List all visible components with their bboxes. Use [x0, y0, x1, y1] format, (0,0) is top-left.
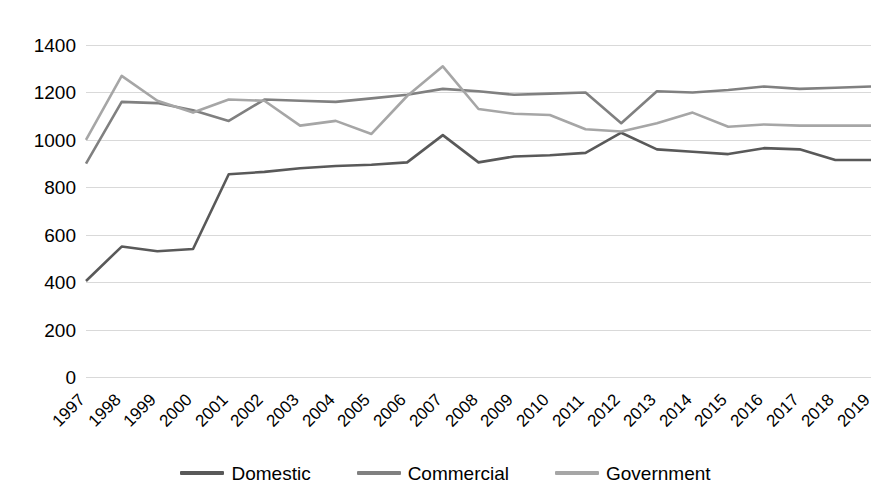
series-line-government	[86, 66, 871, 140]
x-axis: 1997199819992000200120022003200420052006…	[86, 381, 871, 451]
line-chart: 1400120010008006004002000 19971998199920…	[0, 0, 891, 500]
x-tick-label: 2018	[799, 391, 838, 430]
y-tick-label: 800	[44, 178, 76, 197]
x-tick-label: 2007	[406, 391, 445, 430]
legend-swatch-icon	[357, 471, 401, 475]
y-tick-label: 1000	[34, 130, 76, 149]
x-tick-label: 2012	[584, 391, 623, 430]
series-container	[86, 45, 871, 377]
chart-legend: DomesticCommercialGovernment	[0, 458, 891, 488]
x-tick-label: 2015	[691, 391, 730, 430]
x-tick-label: 2003	[263, 391, 302, 430]
legend-item-domestic[interactable]: Domestic	[180, 464, 310, 483]
x-tick-label: 2017	[763, 391, 802, 430]
x-tick-label: 1998	[85, 391, 124, 430]
x-tick-label: 1997	[49, 391, 88, 430]
x-tick-label: 2010	[513, 391, 552, 430]
legend-label: Domestic	[231, 464, 310, 483]
plot-area	[86, 45, 871, 377]
x-tick-label: 2009	[477, 391, 516, 430]
gridline	[86, 377, 871, 378]
legend-swatch-icon	[555, 471, 599, 475]
x-tick-label: 2011	[549, 392, 587, 430]
y-axis: 1400120010008006004002000	[0, 45, 76, 377]
x-tick-label: 2013	[620, 391, 659, 430]
x-tick-label: 2005	[335, 391, 374, 430]
legend-item-commercial[interactable]: Commercial	[357, 464, 509, 483]
x-tick-label: 2000	[156, 391, 195, 430]
x-tick-label: 2006	[370, 391, 409, 430]
x-tick-label: 2002	[228, 391, 267, 430]
x-tick-label: 2004	[299, 391, 338, 430]
x-tick-label: 1999	[121, 391, 160, 430]
x-tick-label: 2014	[656, 391, 695, 430]
y-tick-label: 1200	[34, 83, 76, 102]
legend-swatch-icon	[180, 471, 224, 475]
y-tick-label: 0	[65, 368, 76, 387]
series-line-domestic	[86, 133, 871, 281]
x-tick-label: 2001	[192, 391, 231, 430]
y-tick-label: 1400	[34, 36, 76, 55]
legend-label: Government	[606, 464, 711, 483]
y-tick-label: 400	[44, 273, 76, 292]
legend-item-government[interactable]: Government	[555, 464, 711, 483]
x-tick-label: 2019	[834, 391, 873, 430]
legend-label: Commercial	[408, 464, 509, 483]
y-tick-label: 600	[44, 225, 76, 244]
x-tick-label: 2008	[442, 391, 481, 430]
y-tick-label: 200	[44, 320, 76, 339]
x-tick-label: 2016	[727, 391, 766, 430]
